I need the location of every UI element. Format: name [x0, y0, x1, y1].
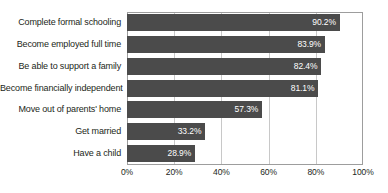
bar-series: 90.2%83.9%82.4%81.1%57.3%33.2%28.9%	[127, 12, 363, 165]
bar-value-label: 57.3%	[127, 101, 262, 118]
x-tick-label: 60%	[260, 167, 277, 177]
category-axis-labels: Complete formal schoolingBecome employed…	[0, 12, 124, 165]
bar-value-label: 90.2%	[127, 14, 340, 31]
bar-row: 82.4%	[127, 56, 363, 78]
bar-row: 90.2%	[127, 12, 363, 34]
x-tick-label: 80%	[307, 167, 324, 177]
category-label: Get married	[0, 121, 124, 143]
x-axis-tick-labels: 0%20%40%60%80%100%	[127, 167, 363, 181]
category-label: Complete formal schooling	[0, 12, 124, 34]
bar-value-label: 28.9%	[127, 145, 195, 162]
bar-value-label: 33.2%	[127, 123, 205, 140]
bar-row: 28.9%	[127, 143, 363, 165]
x-tick-label: 40%	[213, 167, 230, 177]
bar-row: 57.3%	[127, 99, 363, 121]
bar-value-label: 82.4%	[127, 58, 321, 75]
category-label: Have a child	[0, 143, 124, 165]
category-label: Move out of parents' home	[0, 99, 124, 121]
category-label: Become employed full time	[0, 34, 124, 56]
bar-chart: Complete formal schoolingBecome employed…	[0, 0, 388, 193]
bar-value-label: 83.9%	[127, 36, 325, 53]
x-tick-label: 20%	[166, 167, 183, 177]
bar-row: 33.2%	[127, 121, 363, 143]
category-label: Be able to support a family	[0, 56, 124, 78]
top-residue-text	[3, 0, 63, 7]
bar-row: 81.1%	[127, 78, 363, 100]
category-label: Become financially independent	[0, 78, 124, 100]
x-tick-label: 100%	[352, 167, 373, 177]
bar-value-label: 81.1%	[127, 80, 318, 97]
x-tick-label: 0%	[121, 167, 133, 177]
bar-row: 83.9%	[127, 34, 363, 56]
